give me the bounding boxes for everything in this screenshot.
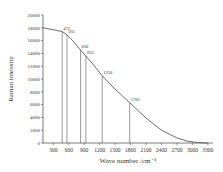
x-tick-label: 1500 (110, 147, 121, 153)
y-tick-label: 10000 (28, 77, 41, 82)
raman-chart: 0200040006000800010000120001400016000180… (0, 0, 223, 172)
peak-label: 1783 (131, 97, 141, 102)
x-tick-label: 3300 (202, 147, 213, 153)
y-tick-label: 8000 (30, 90, 41, 95)
x-tick-label: 2400 (156, 147, 167, 153)
peak-label: 565 (68, 29, 76, 34)
x-tick-label: 2700 (171, 147, 182, 153)
x-tick-label: 1800 (125, 147, 136, 153)
x-tick-label: 1200 (94, 147, 105, 153)
peak-label: 933 (87, 50, 95, 55)
y-tick-label: 2000 (30, 128, 41, 133)
axes: 0200040006000800010000120001400016000180… (28, 13, 214, 153)
x-tick-label: 2100 (141, 147, 152, 153)
y-tick-label: 12000 (28, 64, 41, 69)
x-axis-label: Wave number /cm⁻¹ (99, 157, 156, 165)
y-axis-label: Raman intensity (7, 56, 15, 102)
y-tick-label: 16000 (28, 38, 41, 43)
peak-markers: 47256583093312501783 (62, 26, 140, 143)
spectrum-line (43, 28, 208, 143)
x-tick-label: 900 (80, 147, 89, 153)
y-tick-label: 14000 (28, 51, 41, 56)
x-tick-label: 600 (65, 147, 74, 153)
y-tick-label: 18000 (28, 26, 41, 31)
y-tick-label: 4000 (30, 115, 41, 120)
peak-label: 830 (82, 44, 90, 49)
peak-label: 1250 (103, 70, 113, 75)
y-tick-label: 0 (38, 141, 41, 146)
x-tick-label: 3000 (187, 147, 198, 153)
y-tick-label: 6000 (30, 102, 41, 107)
y-tick-label: 20000 (28, 13, 41, 18)
x-tick-label: 300 (49, 147, 58, 153)
